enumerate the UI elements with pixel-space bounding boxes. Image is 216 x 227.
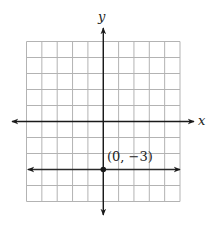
y-axis-label: y <box>97 9 106 24</box>
point-label: (0, −3) <box>107 149 153 164</box>
x-axis-label: x <box>198 113 206 128</box>
coordinate-plane: (0, −3) x y <box>0 0 216 227</box>
point-0-neg3 <box>101 167 107 173</box>
